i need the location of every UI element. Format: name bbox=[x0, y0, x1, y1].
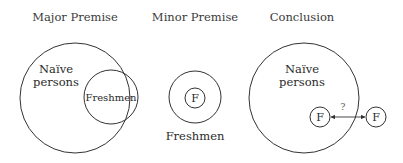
minor-premise-panel: Minor Premise F Freshmen bbox=[152, 10, 238, 143]
major-premise-panel: Major Premise Naïve persons Freshmen bbox=[20, 10, 138, 153]
minor-premise-title: Minor Premise bbox=[152, 10, 238, 24]
naive-persons-circle bbox=[249, 43, 359, 153]
right-f-label: F bbox=[372, 111, 380, 124]
freshmen-label: Freshmen bbox=[85, 92, 137, 103]
persons-label: persons bbox=[279, 75, 325, 89]
major-premise-title: Major Premise bbox=[32, 10, 118, 24]
conclusion-panel: Conclusion Naïve persons F F ? bbox=[249, 10, 386, 153]
syllogism-diagram: Major Premise Naïve persons Freshmen Min… bbox=[0, 0, 403, 163]
persons-label: persons bbox=[33, 75, 79, 89]
freshmen-caption: Freshmen bbox=[166, 129, 225, 143]
f-label: F bbox=[191, 92, 199, 105]
question-mark-label: ? bbox=[341, 102, 346, 112]
naive-label: Naïve bbox=[285, 62, 319, 76]
naive-label: Naïve bbox=[39, 62, 73, 76]
conclusion-title: Conclusion bbox=[270, 10, 335, 24]
left-f-label: F bbox=[316, 111, 324, 124]
